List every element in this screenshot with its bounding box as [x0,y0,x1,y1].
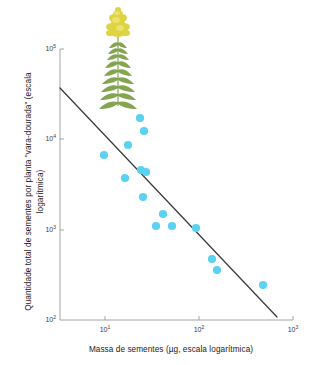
data-point [124,141,132,149]
data-point [136,114,144,122]
data-point [159,210,167,218]
chart-figure: Quantidade total de sementes por planta … [0,0,309,365]
data-point [140,127,148,135]
plot-area [0,0,309,365]
data-point [192,224,200,232]
axis-frame [60,49,293,320]
data-point [208,255,216,263]
data-point [100,151,108,159]
data-point [213,266,221,274]
data-point [168,222,176,230]
axis-tick-marks [60,49,293,320]
data-points [100,114,267,289]
data-point [121,174,129,182]
data-point [139,193,147,201]
data-point [152,222,160,230]
trend-line [60,88,277,317]
data-point [142,168,150,176]
data-point [259,281,267,289]
